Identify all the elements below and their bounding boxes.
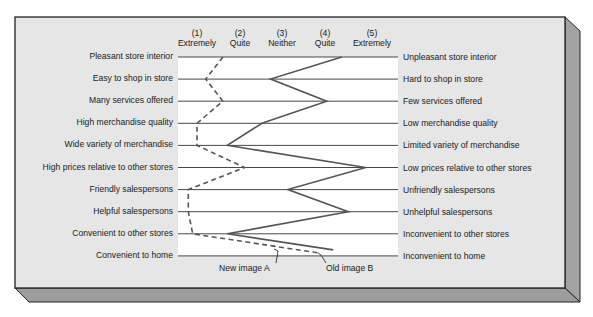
attribute-left-label: Wide variety of merchandise [65,139,173,149]
scale-header: (5)Extremely [347,28,397,48]
attribute-left-label: Many services offered [89,95,173,105]
scale-header: (4)Quite [300,28,350,48]
attribute-right-label: Low prices relative to other stores [403,163,532,173]
attribute-left-label: Convenient to other stores [72,228,173,238]
attribute-right-label: Unfriendly salespersons [403,185,495,195]
attribute-right-label: Limited variety of merchandise [403,140,520,150]
legend-new-image-a: New image A [219,263,270,273]
attribute-left-label: Helpful salespersons [93,206,173,216]
right-bevel [565,17,580,302]
attribute-right-label: Unpleasant store interior [403,52,497,62]
attribute-right-label: Unhelpful salespersons [403,207,492,217]
attribute-right-label: Low merchandise quality [403,118,498,128]
attribute-left-label: Easy to shop in store [93,73,173,83]
attribute-right-label: Few services offered [403,96,482,106]
scale-word: Quite [300,38,350,48]
scale-word: Extremely [347,38,397,48]
bottom-bevel [15,288,580,302]
attribute-left-label: Friendly salespersons [89,184,173,194]
attribute-right-label: Inconvenient to other stores [403,229,509,239]
attribute-left-label: High prices relative to other stores [43,162,173,172]
attribute-left-label: Convenient to home [96,250,173,260]
attribute-right-label: Inconvenient to home [403,251,485,261]
legend-old-image-b: Old image B [326,263,373,273]
scale-number: (5) [347,28,397,38]
attribute-left-label: Pleasant store interior [89,51,173,61]
scale-number: (4) [300,28,350,38]
attribute-left-label: High merchandise quality [77,117,174,127]
attribute-right-label: Hard to shop in store [403,74,483,84]
